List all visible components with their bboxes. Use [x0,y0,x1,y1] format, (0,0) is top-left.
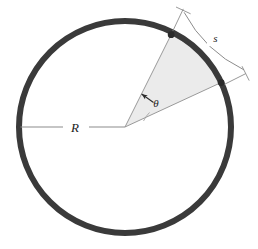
circle-sector-diagram: R s θ [0,0,258,249]
arc-tick-lower [242,66,249,80]
radius-label: R [70,120,79,135]
arc-length-label: s [213,32,217,44]
arc-endpoint-marker-lower [218,79,225,86]
sector-wedge [125,35,221,127]
angle-label: θ [153,97,159,109]
arc-tick-upper [176,7,191,14]
figure-canvas: R s θ [0,0,258,249]
arc-leader-line-upper [173,9,184,31]
arc-leader-line-lower [225,74,246,85]
arc-endpoint-marker-upper [168,31,175,38]
